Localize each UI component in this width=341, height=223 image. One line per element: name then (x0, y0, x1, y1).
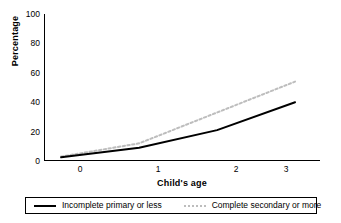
y-tick-label: 20 (18, 128, 40, 137)
legend-item: Incomplete primary or less (34, 198, 162, 213)
x-axis-title: Child's age (44, 178, 320, 188)
x-tick-label: 3 (276, 165, 296, 174)
legend-swatch-dotted-line-icon (184, 202, 206, 210)
legend-item: Complete secondary or more (184, 198, 322, 213)
y-tick-label: 80 (18, 39, 40, 48)
plot-area (44, 14, 320, 161)
chart-legend: Incomplete primary or less Complete seco… (25, 197, 317, 214)
y-tick-label: 40 (18, 98, 40, 107)
y-axis-tick-labels: 100 80 60 40 20 0 (16, 14, 40, 161)
chart-figure: Percentage 100 80 60 40 20 0 (0, 0, 341, 223)
legend-swatch-solid-line-icon (34, 202, 56, 210)
legend-item-label: Incomplete primary or less (62, 201, 162, 210)
x-tick-label: 2 (226, 165, 246, 174)
y-tick-label: 60 (18, 69, 40, 78)
x-axis-tick-labels: 0 1 2 3 (44, 165, 320, 177)
x-tick-label: 0 (70, 165, 90, 174)
series-line-complete-secondary-or-more (61, 82, 295, 157)
legend-item-label: Complete secondary or more (212, 201, 322, 210)
series-line-incomplete-primary-or-less (61, 102, 295, 157)
x-tick-label: 1 (148, 165, 168, 174)
plot-svg (44, 14, 320, 161)
y-tick-label: 100 (18, 10, 40, 19)
y-tick-label: 0 (18, 157, 40, 166)
